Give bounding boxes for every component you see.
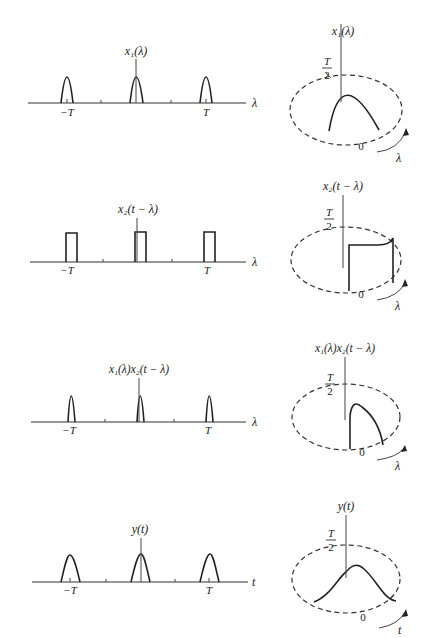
signal-label: x₂(t − λ) xyxy=(117,202,158,216)
panel-3-circular: x₁(λ)x₂(t − λ) T 2 0 λ xyxy=(292,342,407,473)
svg-text:t: t xyxy=(252,575,256,589)
svg-text:t: t xyxy=(398,623,402,637)
periodic-convolution-figure: x₁(λ) −T T λ x₁(λ) T 2 0 λ x₂(t − λ) −T … xyxy=(0,0,436,638)
svg-text:T: T xyxy=(328,527,335,539)
svg-text:2: 2 xyxy=(327,385,333,397)
pulse-neg-T xyxy=(68,396,75,422)
pulse-T xyxy=(204,232,215,262)
svg-text:0: 0 xyxy=(358,288,364,300)
svg-text:−T: −T xyxy=(63,584,77,596)
svg-text:0: 0 xyxy=(359,446,365,458)
panel-1-linear: x₁(λ) −T T λ xyxy=(28,44,257,118)
svg-text:λ: λ xyxy=(251,415,257,429)
panel-3-linear: x₁(λ)x₂(t − λ) −T T λ xyxy=(31,363,257,436)
rotation-arrow xyxy=(377,131,406,152)
signal-label: x₂(t − λ) xyxy=(322,179,363,193)
T-label: T xyxy=(203,106,210,118)
svg-text:T: T xyxy=(327,371,334,383)
svg-text:T: T xyxy=(204,264,211,276)
signal-label: y(t) xyxy=(131,522,149,536)
panel-4-linear: y(t) −T T t xyxy=(32,522,256,596)
signal-label: x₁(λ) xyxy=(331,24,355,38)
panel-4-circular: y(t) T 2 0 t xyxy=(292,499,408,637)
svg-text:T: T xyxy=(324,55,331,67)
svg-text:λ: λ xyxy=(394,459,400,473)
period-circle xyxy=(292,384,400,450)
svg-text:T: T xyxy=(326,206,333,218)
pulse-T xyxy=(206,396,213,422)
svg-text:2: 2 xyxy=(324,69,330,81)
wrapped-pulse xyxy=(350,404,383,449)
svg-text:0: 0 xyxy=(360,611,366,623)
svg-text:λ: λ xyxy=(251,255,257,269)
rotation-var: λ xyxy=(395,151,401,165)
signal-label: x₁(λ)x₂(t − λ) xyxy=(108,363,169,376)
wrapped-pulse xyxy=(329,95,379,131)
signal-label: y(t) xyxy=(337,499,355,513)
svg-text:2: 2 xyxy=(326,220,332,232)
panel-1-circular: x₁(λ) T 2 0 λ xyxy=(290,24,409,165)
svg-text:T: T xyxy=(205,424,212,436)
signal-label: x₁(λ)x₂(t − λ) xyxy=(314,342,375,355)
pulse-neg-T xyxy=(66,233,77,262)
pulse-neg-T xyxy=(61,555,80,582)
svg-text:T: T xyxy=(206,584,213,596)
zero-label: 0 xyxy=(358,140,364,152)
pulse-T xyxy=(200,554,219,582)
axis-var-label: λ xyxy=(251,96,257,110)
wrapped-output xyxy=(314,565,396,602)
svg-text:λ: λ xyxy=(394,299,400,313)
period-circle xyxy=(291,227,401,293)
neg-T-label: −T xyxy=(60,106,74,118)
period-circle xyxy=(290,75,402,145)
svg-text:2: 2 xyxy=(328,541,334,553)
panel-2-circular: x₂(t − λ) T 2 0 λ xyxy=(291,179,408,313)
svg-text:−T: −T xyxy=(62,424,76,436)
signal-label: x₁(λ) xyxy=(124,44,148,58)
svg-text:−T: −T xyxy=(60,264,74,276)
pulse-center xyxy=(137,396,144,422)
panel-2-linear: x₂(t − λ) −T T λ xyxy=(30,202,257,276)
rotation-arrow xyxy=(377,283,405,300)
